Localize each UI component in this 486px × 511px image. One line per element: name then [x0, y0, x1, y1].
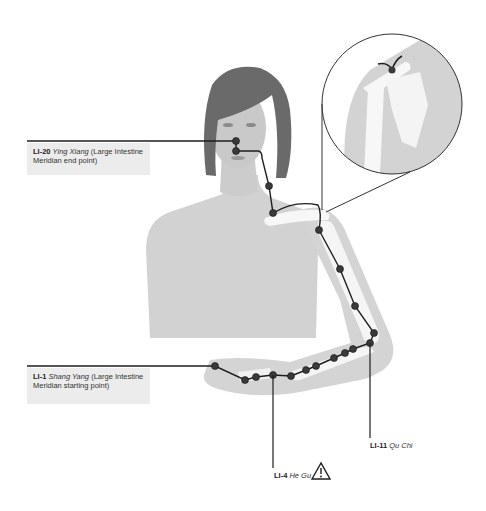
- warning-triangle-icon: [312, 463, 330, 479]
- label-li-11: LI-11 Qu Chi: [370, 441, 413, 450]
- torso: [146, 175, 319, 338]
- label-li-1: LI-1 Shang Yang (Large Intestine Meridia…: [27, 368, 150, 404]
- meridian-diagram: LI-20 Ying Xiang (Large Intestine Meridi…: [0, 0, 486, 511]
- forearm-hand: [204, 339, 388, 395]
- label-li-20: LI-20 Ying Xiang (Large Intestine Meridi…: [27, 143, 150, 175]
- shoulder-inset: [322, 34, 470, 180]
- figure-illustration: [0, 0, 486, 511]
- label-li-4: LI-4 He Gu: [274, 471, 311, 480]
